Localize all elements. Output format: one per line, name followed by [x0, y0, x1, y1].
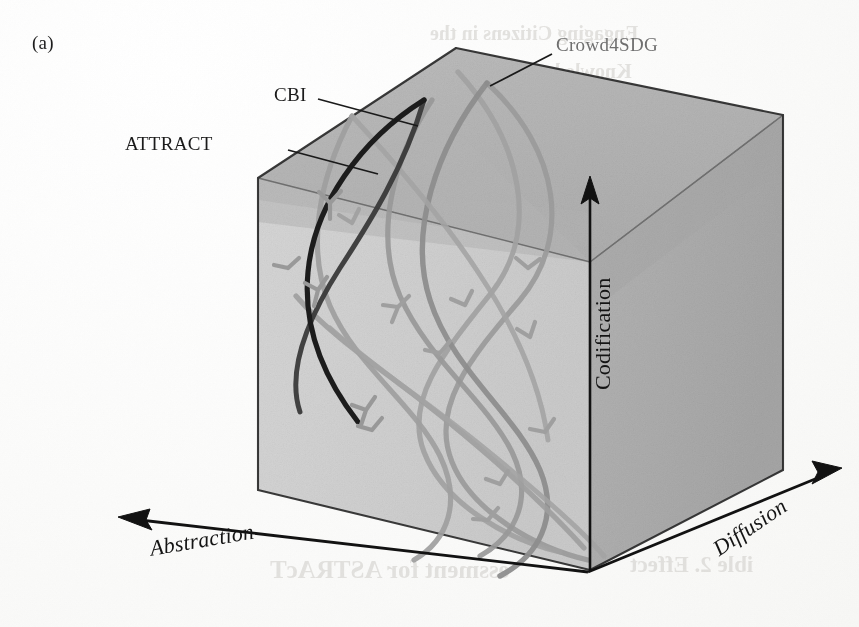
callout-label-crowd4sdg: Crowd4SDG — [556, 34, 658, 56]
figure-canvas: Engaging Citizens in the Knowledge Socie… — [0, 0, 859, 627]
callout-label-attract: ATTRACT — [125, 133, 213, 155]
callout-label-cbi: CBI — [274, 84, 307, 106]
axis-label-codification: Codification — [590, 278, 616, 390]
panel-letter: (a) — [32, 32, 54, 54]
